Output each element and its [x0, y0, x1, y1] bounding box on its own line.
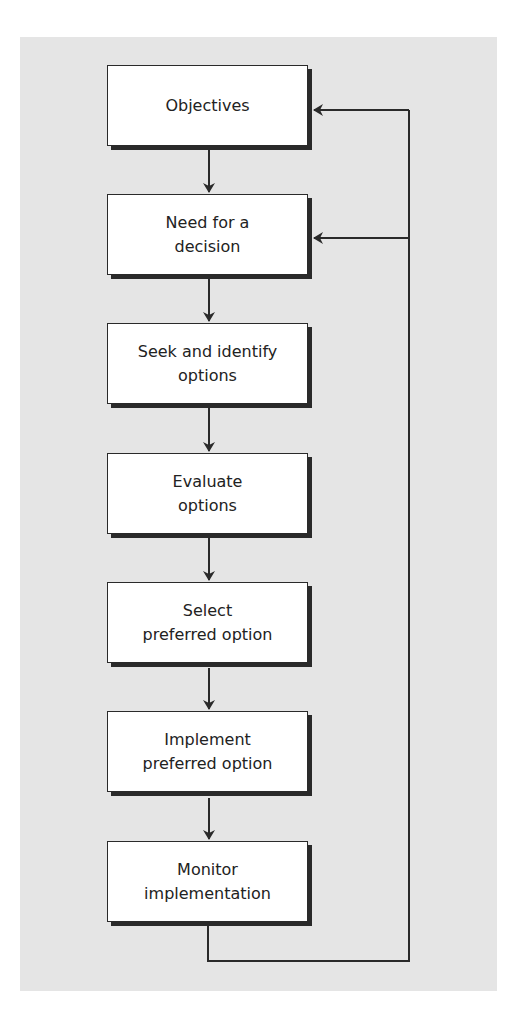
- step-label: options: [173, 494, 243, 518]
- step-evaluate-options: Evaluate options: [107, 453, 308, 534]
- step-label: Objectives: [165, 94, 249, 118]
- step-label: Select: [143, 599, 273, 623]
- step-label: options: [138, 364, 278, 388]
- step-objectives: Objectives: [107, 65, 308, 146]
- step-seek-identify-options: Seek and identify options: [107, 323, 308, 404]
- step-label: implementation: [144, 882, 271, 906]
- step-implement-preferred-option: Implement preferred option: [107, 711, 308, 792]
- step-label: Implement: [143, 728, 273, 752]
- step-label: preferred option: [143, 752, 273, 776]
- step-label: decision: [166, 235, 250, 259]
- step-need-for-decision: Need for a decision: [107, 194, 308, 275]
- step-monitor-implementation: Monitor implementation: [107, 841, 308, 922]
- step-select-preferred-option: Select preferred option: [107, 582, 308, 663]
- step-label: preferred option: [143, 623, 273, 647]
- step-label: Seek and identify: [138, 340, 278, 364]
- step-label: Evaluate: [173, 470, 243, 494]
- step-label: Need for a: [166, 211, 250, 235]
- step-label: Monitor: [144, 858, 271, 882]
